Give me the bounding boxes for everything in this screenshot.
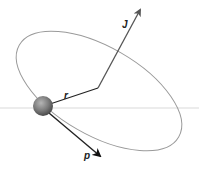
- j-vector-arrow: [98, 10, 140, 88]
- particle-sphere: [33, 96, 53, 116]
- angular-momentum-diagram: J r p: [0, 0, 199, 170]
- r-vector-line: [50, 88, 98, 104]
- p-vector-arrow: [49, 113, 100, 156]
- label-p: p: [83, 150, 90, 161]
- orbit-ellipse: [0, 7, 199, 170]
- label-r: r: [64, 90, 69, 101]
- label-j: J: [122, 19, 128, 30]
